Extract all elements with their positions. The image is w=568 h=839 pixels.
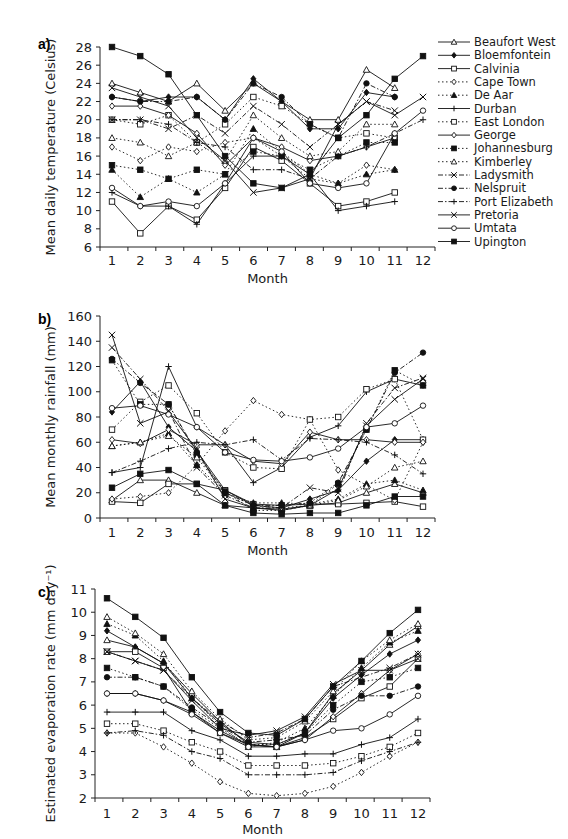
square-marker-icon	[415, 730, 420, 735]
circle-marker-icon	[415, 693, 420, 698]
legend-entry: Nelspruit	[438, 181, 526, 195]
cross-marker-icon	[132, 658, 138, 664]
legend-label: Pretoria	[474, 208, 519, 222]
data-series	[109, 430, 426, 506]
triangle-marker-icon	[451, 92, 457, 97]
square-marker-icon	[364, 503, 369, 508]
triangle-marker-icon	[194, 80, 200, 86]
triangle-marker-icon	[104, 621, 110, 627]
diamond-marker-icon	[359, 769, 364, 775]
x-tick-label: 11	[386, 525, 403, 540]
plus-marker-icon	[217, 755, 223, 761]
square-marker-icon	[222, 172, 227, 177]
square-marker-icon	[222, 503, 227, 508]
square-marker-icon	[420, 494, 425, 499]
diamond-marker-icon	[452, 53, 456, 59]
legend-entry: East London	[438, 115, 545, 129]
x-tick-label: 2	[131, 806, 139, 821]
diamond-marker-icon	[109, 103, 114, 109]
legend-label: Bloemfontein	[474, 48, 551, 62]
y-tick-label: 60	[75, 435, 92, 450]
diamond-marker-icon	[161, 744, 166, 750]
x-tick-label: 12	[410, 806, 427, 821]
x-tick-label: 5	[221, 525, 229, 540]
series-line	[107, 631, 418, 745]
plus-marker-icon	[109, 469, 115, 475]
legend-entry: George	[438, 128, 516, 142]
square-marker-icon	[166, 467, 171, 472]
x-tick-label: 3	[159, 806, 167, 821]
square-marker-icon	[222, 153, 227, 158]
plus-marker-icon	[278, 167, 284, 173]
legend-entry: Upington	[438, 235, 526, 249]
square-marker-icon	[452, 119, 457, 124]
series-line	[112, 406, 423, 462]
plus-marker-icon	[189, 727, 195, 733]
diamond-marker-icon	[251, 397, 256, 403]
triangle-marker-icon	[132, 630, 138, 636]
circle-marker-icon	[109, 94, 114, 99]
square-marker-icon	[194, 410, 199, 415]
square-marker-icon	[251, 94, 256, 99]
square-marker-icon	[392, 376, 397, 381]
y-tick-label: 14	[75, 167, 92, 182]
y-tick-label: 160	[67, 309, 92, 324]
x-tick-label: 1	[108, 253, 116, 268]
x-tick-label: 10	[358, 253, 375, 268]
data-series	[109, 397, 425, 503]
data-series	[109, 44, 425, 190]
series-line	[107, 694, 418, 747]
x-tick-label: 11	[381, 806, 398, 821]
diamond-marker-icon	[331, 783, 336, 789]
square-marker-icon	[415, 665, 420, 670]
plus-marker-icon	[165, 363, 171, 369]
x-axis-title: Month	[247, 543, 288, 558]
x-tick-label: 10	[353, 806, 370, 821]
square-marker-icon	[279, 103, 284, 108]
data-series	[109, 403, 425, 464]
square-marker-icon	[392, 140, 397, 145]
circle-marker-icon	[194, 424, 199, 429]
cross-marker-icon	[392, 385, 398, 391]
triangle-marker-icon	[104, 614, 110, 620]
legend-label: Ladysmith	[474, 168, 534, 182]
plus-marker-icon	[250, 167, 256, 173]
circle-marker-icon	[161, 684, 166, 689]
square-marker-icon	[217, 709, 222, 714]
x-tick-label: 2	[136, 253, 144, 268]
square-marker-icon	[364, 112, 369, 117]
square-marker-icon	[133, 721, 138, 726]
circle-marker-icon	[133, 675, 138, 680]
circle-marker-icon	[364, 81, 369, 86]
circle-marker-icon	[420, 108, 425, 113]
circle-marker-icon	[251, 457, 256, 462]
legend-entry: Johannesburg	[438, 141, 553, 155]
figure: a)6810121416182022242628123456789101112M…	[0, 0, 568, 839]
square-marker-icon	[359, 658, 364, 663]
plus-marker-icon	[222, 144, 228, 150]
legend-entry: Beaufort West	[438, 35, 556, 49]
x-tick-label: 1	[103, 806, 111, 821]
triangle-marker-icon	[392, 121, 398, 127]
square-marker-icon	[104, 721, 109, 726]
x-tick-label: 4	[193, 525, 201, 540]
data-series	[104, 730, 420, 799]
square-marker-icon	[387, 630, 392, 635]
diamond-marker-icon	[223, 428, 228, 434]
diamond-marker-icon	[104, 628, 109, 634]
legend-label: De Aar	[474, 88, 514, 102]
square-marker-icon	[452, 239, 457, 244]
square-marker-icon	[109, 44, 114, 49]
circle-marker-icon	[307, 455, 312, 460]
square-marker-icon	[133, 649, 138, 654]
x-tick-label: 6	[249, 525, 257, 540]
chart-panel-2: c)234567891011123456789101112MonthEstima…	[38, 564, 430, 837]
circle-marker-icon	[166, 99, 171, 104]
square-marker-icon	[359, 679, 364, 684]
circle-marker-icon	[246, 744, 251, 749]
panel-label: b)	[38, 311, 51, 327]
circle-marker-icon	[359, 693, 364, 698]
circle-marker-icon	[364, 181, 369, 186]
circle-marker-icon	[189, 705, 194, 710]
square-marker-icon	[330, 760, 335, 765]
